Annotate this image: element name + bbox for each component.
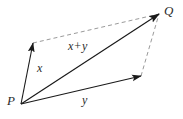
sum-term-second: y — [82, 39, 87, 53]
sum-operator: + — [73, 39, 82, 53]
dashed-line-x-to-Q — [33, 14, 159, 43]
vector-addition-diagram: P Q x y x+y — [0, 0, 183, 119]
vector-arrow-x — [21, 43, 33, 104]
diagram-canvas — [0, 0, 183, 119]
vector-label-y: y — [82, 94, 87, 106]
point-label-Q: Q — [164, 4, 173, 17]
vector-arrow-y — [21, 76, 141, 104]
construction-lines-group — [33, 14, 159, 76]
vector-arrow-x-plus-y — [21, 14, 159, 104]
vector-label-x-plus-y: x+y — [68, 40, 87, 52]
vectors-group — [21, 14, 159, 104]
point-label-P: P — [7, 94, 15, 107]
vector-label-x: x — [37, 62, 42, 74]
